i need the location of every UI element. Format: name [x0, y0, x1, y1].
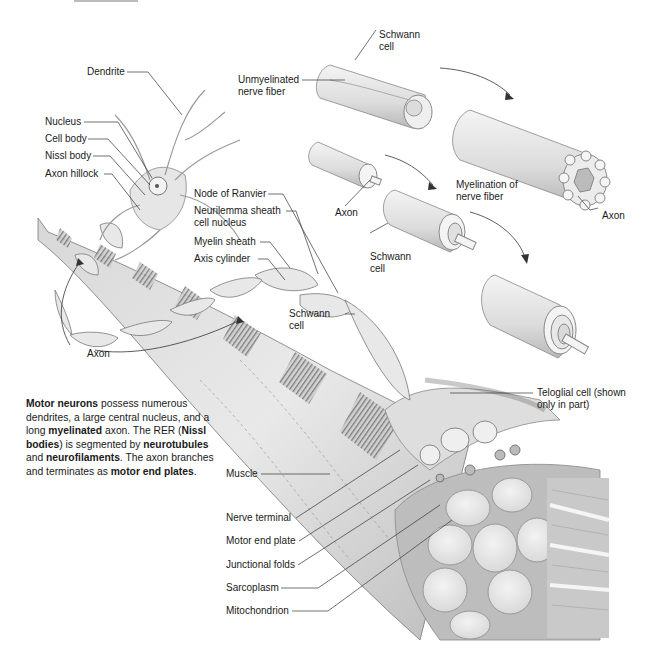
caption-term: Motor neurons	[26, 398, 98, 409]
label-teloglial-1: Teloglial cell (shown	[537, 387, 626, 399]
label-axon-left: Axon	[87, 348, 110, 360]
label-mitochondrion: Mitochondrion	[226, 605, 289, 617]
label-axis-cylinder: Axis cylinder	[194, 253, 250, 265]
myelination-stage-1	[309, 142, 382, 188]
label-schwann-mid-1: Schwann	[289, 308, 330, 320]
caption-term: motor end plates	[111, 466, 194, 477]
label-teloglial-2: only in part)	[537, 399, 589, 411]
label-sarcoplasm: Sarcoplasm	[226, 582, 279, 594]
figure-caption: Motor neurons possess numerous dendrites…	[26, 397, 226, 479]
caption-term: neurotubules	[143, 439, 208, 450]
label-neurilemma-2: cell nucleus	[194, 217, 246, 229]
caption-term: myelinated	[48, 425, 102, 436]
label-nucleus: Nucleus	[45, 116, 81, 128]
label-schwann-low-2: cell	[370, 263, 385, 275]
label-schwann-top-1: Schwann	[379, 29, 420, 41]
label-myelination-2: nerve fiber	[456, 191, 503, 203]
label-myelination-1: Myelination of	[456, 179, 518, 191]
label-node-of-ranvier: Node of Ranvier	[194, 188, 266, 200]
caption-text: .	[194, 466, 197, 477]
muscle-cross-section	[395, 464, 609, 640]
label-muscle: Muscle	[226, 468, 258, 480]
illustration	[0, 0, 649, 662]
label-dendrite: Dendrite	[87, 66, 125, 78]
unmyelinated-fiber	[316, 65, 432, 129]
label-schwann-low-1: Schwann	[370, 251, 411, 263]
caption-text: axon. The RER (	[102, 425, 181, 436]
caption-text: ) is segmented by	[59, 439, 143, 450]
label-neurilemma-1: Neurilemma sheath	[194, 205, 281, 217]
label-axon-myelination: Axon	[335, 207, 358, 219]
myelination-stage-3	[482, 275, 589, 358]
label-schwann-mid-2: cell	[289, 320, 304, 332]
caption-text: and	[26, 452, 46, 463]
label-axon-right: Axon	[602, 210, 625, 222]
label-unmyelinated-2: nerve fiber	[238, 86, 285, 98]
caption-term: neurofilaments	[46, 452, 120, 463]
label-axon-hillock: Axon hillock	[45, 168, 98, 180]
label-cell-body: Cell body	[45, 133, 87, 145]
arrow-1	[440, 68, 510, 95]
label-motor-end-plate: Motor end plate	[226, 535, 296, 547]
label-unmyelinated-1: Unmyelinated	[238, 74, 299, 86]
label-myelin-sheath: Myelin sheath	[194, 236, 256, 248]
label-schwann-top-2: cell	[379, 41, 394, 53]
label-junctional-folds: Junctional folds	[226, 559, 295, 571]
label-nissl-body: Nissl body	[45, 150, 91, 162]
label-nerve-terminal: Nerve terminal	[226, 512, 291, 524]
